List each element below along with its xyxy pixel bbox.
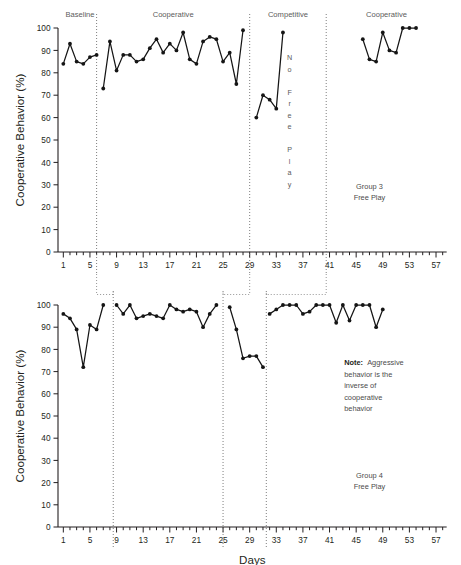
series-line: [230, 307, 263, 367]
data-point-marker: [254, 116, 258, 120]
figure-panel: 0102030405060708090100Cooperative Behavi…: [0, 0, 461, 565]
data-point-marker: [215, 37, 219, 41]
data-point-marker: [414, 26, 418, 30]
x-tick-label: 49: [378, 535, 388, 545]
x-tick-label: 45: [352, 260, 362, 270]
data-point-marker: [195, 62, 199, 66]
data-point-marker: [234, 82, 238, 86]
note-label: Note:: [344, 358, 363, 367]
data-point-marker: [68, 42, 72, 46]
data-point-marker: [368, 57, 372, 61]
data-point-marker: [148, 312, 152, 316]
data-point-marker: [81, 365, 85, 369]
y-tick-label: 60: [41, 113, 51, 123]
phase-connector: [223, 274, 250, 295]
x-tick-label: 33: [272, 535, 282, 545]
y-axis-title: Cooperative Behavior (%): [13, 349, 26, 482]
phase-connectors: [97, 274, 327, 295]
data-point-marker: [128, 303, 132, 307]
data-point-marker: [175, 308, 179, 312]
x-tick-label: 41: [325, 260, 335, 270]
two-panel-line-chart: 0102030405060708090100Cooperative Behavi…: [0, 0, 461, 565]
x-tick-label: 29: [245, 535, 255, 545]
y-tick-label: 0: [46, 247, 51, 257]
data-point-marker: [381, 31, 385, 35]
data-point-marker: [101, 87, 105, 91]
data-point-marker: [88, 55, 92, 59]
y-tick-label: 40: [41, 433, 51, 443]
data-point-marker: [61, 312, 65, 316]
note-line: cooperative: [344, 393, 382, 402]
x-tick-label: 37: [298, 260, 308, 270]
no-free-play-letter: N: [287, 53, 292, 62]
data-point-marker: [208, 312, 212, 316]
data-point-marker: [374, 60, 378, 64]
data-point-marker: [381, 308, 385, 312]
data-point-marker: [228, 305, 232, 309]
phase-labels-group3: BaselineCooperativeCompetitiveCooperativ…: [65, 10, 407, 19]
x-axis-group4: 159131721252933374145495357Days: [58, 527, 447, 565]
data-point-marker: [281, 303, 285, 307]
x-tick-label: 1: [61, 260, 66, 270]
x-tick-label: 17: [165, 260, 175, 270]
x-tick-label: 41: [325, 535, 335, 545]
data-point-marker: [368, 303, 372, 307]
data-point-marker: [274, 308, 278, 312]
x-tick-label: 1: [61, 535, 66, 545]
data-point-marker: [115, 69, 119, 73]
data-point-marker: [228, 51, 232, 55]
x-tick-label: 9: [114, 535, 119, 545]
data-point-marker: [75, 328, 79, 332]
data-point-marker: [108, 40, 112, 44]
data-point-marker: [314, 303, 318, 307]
data-point-marker: [334, 321, 338, 325]
data-point-marker: [301, 312, 305, 316]
x-tick-label: 13: [139, 535, 149, 545]
data-point-marker: [248, 354, 252, 358]
group-label: Free Play: [354, 482, 386, 491]
data-point-marker: [95, 328, 99, 332]
x-tick-label: 53: [405, 535, 415, 545]
y-tick-label: 70: [41, 367, 51, 377]
data-point-marker: [175, 49, 179, 53]
note-line: behavior is the: [344, 370, 392, 379]
data-point-marker: [161, 316, 165, 320]
data-point-marker: [341, 303, 345, 307]
x-tick-label: 49: [378, 260, 388, 270]
data-point-marker: [75, 60, 79, 64]
x-axis-group3: 159131721252933374145495357: [58, 252, 447, 270]
note-line: behavior: [344, 404, 373, 413]
data-point-marker: [135, 60, 139, 64]
data-point-marker: [208, 35, 212, 39]
data-point-marker: [161, 51, 165, 55]
phase-boundaries-group4: [113, 291, 266, 549]
data-point-marker: [128, 53, 132, 57]
data-point-marker: [394, 51, 398, 55]
y-tick-label: 90: [41, 322, 51, 332]
data-point-marker: [308, 310, 312, 314]
data-point-marker: [328, 303, 332, 307]
x-axis-title: Days: [239, 553, 266, 565]
data-point-marker: [268, 312, 272, 316]
x-tick-label: 9: [114, 260, 119, 270]
data-point-marker: [101, 303, 105, 307]
no-free-play-letter: l: [289, 157, 291, 166]
phase-label: Competitive: [268, 10, 308, 19]
group-label: Free Play: [354, 193, 386, 202]
data-point-marker: [115, 303, 119, 307]
no-free-play-letter: o: [288, 65, 292, 74]
group-label: Group 3: [356, 182, 383, 191]
data-point-marker: [321, 303, 325, 307]
data-point-marker: [354, 303, 358, 307]
data-point-marker: [215, 303, 219, 307]
note-line: inverse of: [344, 381, 377, 390]
data-point-marker: [81, 62, 85, 66]
y-tick-label: 80: [41, 345, 51, 355]
data-point-marker: [181, 31, 185, 35]
annotations-group4: Group 4Free PlayNote:Aggressivebehavior …: [344, 358, 404, 491]
y-tick-label: 0: [46, 522, 51, 532]
x-tick-label: 13: [139, 260, 149, 270]
x-tick-label: 57: [431, 260, 441, 270]
data-point-marker: [388, 49, 392, 53]
data-point-marker: [88, 323, 92, 327]
